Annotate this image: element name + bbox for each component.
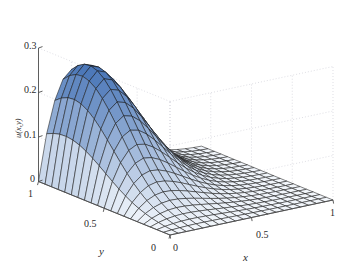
plot-canvas: [0, 0, 351, 270]
x-tick-label-0-5: 0.5: [256, 230, 269, 240]
x-axis-label: x: [243, 252, 248, 263]
z-tick-label-0: 0: [30, 174, 35, 184]
surface-plot-figure: 0.3 0.2 0.1 0 u(x,y) 1 0.5 0 y 0 0.5 1 x: [0, 0, 351, 270]
x-tick-label-1: 1: [330, 208, 335, 218]
y-axis-label: y: [99, 246, 104, 257]
y-tick-label-0-5: 0.5: [84, 219, 97, 229]
z-tick-label-0-2: 0.2: [24, 85, 37, 95]
z-tick-label-0-3: 0.3: [24, 41, 37, 51]
z-axis-label: u(x,y): [14, 118, 23, 138]
x-tick-label-0: 0: [173, 243, 178, 253]
y-tick-label-1: 1: [28, 189, 33, 199]
z-tick-label-0-1: 0.1: [24, 130, 37, 140]
y-tick-label-0: 0: [151, 243, 156, 253]
